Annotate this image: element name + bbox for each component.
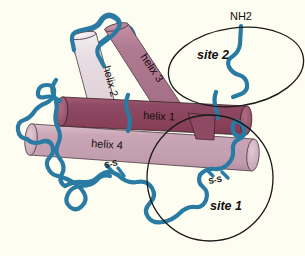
site-2-outline [163,19,305,115]
site-1-label: site 1 [210,199,242,213]
helix-4-label: helix 4 [91,137,124,151]
site1-bottom-chain [118,175,207,222]
disulfide-right-label: S-S [208,175,223,186]
nh2-label: NH2 [230,10,252,22]
site-2-label: site 2 [197,48,229,62]
helix-1-label: helix 1 [143,109,175,123]
nh2-tail [228,26,247,97]
protein-structure-figure: helix 2 helix 3 helix 4 [0,0,305,256]
protein-diagram-canvas: helix 2 helix 3 helix 4 [0,0,305,256]
